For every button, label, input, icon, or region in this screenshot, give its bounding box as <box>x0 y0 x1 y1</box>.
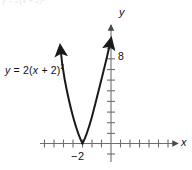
equation-equals: = <box>14 64 20 76</box>
equation-lhs: y <box>5 64 10 76</box>
y-axis-label: y <box>119 6 125 18</box>
x-tick-label-negative-2: −2 <box>71 150 85 162</box>
y-axis-group <box>107 25 115 162</box>
equation-exponent: 2 <box>61 63 65 70</box>
y-tick-label-8: 8 <box>118 50 124 62</box>
parabola-curve-right-branch <box>83 41 111 144</box>
parabola-figure: y = 2(x + 2)² <box>0 0 192 170</box>
equation-rhs-var: x <box>33 64 38 76</box>
equation-rhs-plus: + 2) <box>41 64 60 76</box>
equation-label: y = 2(x + 2)2 <box>5 63 64 76</box>
x-axis-group <box>40 140 178 148</box>
graph-canvas <box>0 0 192 170</box>
equation-rhs-pre: 2( <box>23 64 33 76</box>
parabola-curve-group <box>60 41 110 144</box>
x-axis-label: x <box>181 136 187 148</box>
